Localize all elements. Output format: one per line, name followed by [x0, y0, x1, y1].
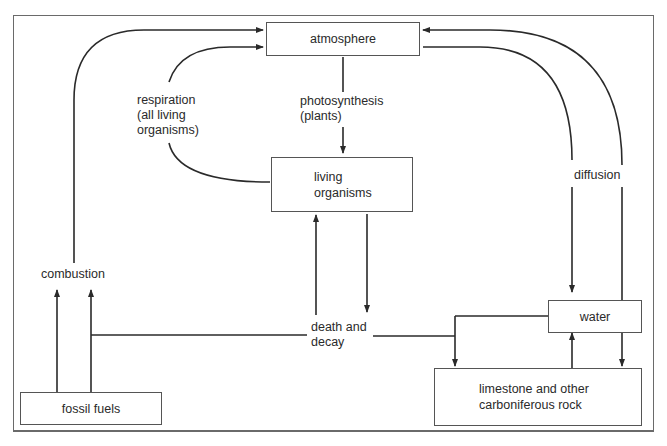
- node-living-organisms-label: living organisms: [314, 169, 372, 201]
- node-limestone-rock: limestone and other carboniferous rock: [434, 368, 642, 426]
- node-fossil-fuels-label: fossil fuels: [62, 402, 120, 416]
- node-fossil-fuels: fossil fuels: [20, 392, 162, 425]
- node-water-label: water: [580, 310, 611, 324]
- node-atmosphere: atmosphere: [266, 22, 420, 56]
- label-diffusion: diffusion: [572, 168, 622, 183]
- node-living-organisms: living organisms: [271, 157, 413, 212]
- label-combustion: combustion: [41, 267, 105, 282]
- node-limestone-rock-label: limestone and other carboniferous rock: [479, 381, 589, 413]
- label-death-and-decay: death and decay: [311, 320, 367, 350]
- label-respiration: respiration (all living organisms): [137, 93, 199, 138]
- label-photosynthesis: photosynthesis (plants): [300, 94, 383, 124]
- node-water: water: [548, 300, 642, 333]
- node-atmosphere-label: atmosphere: [310, 32, 376, 46]
